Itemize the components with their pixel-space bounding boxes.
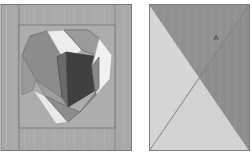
block-label-a: A — [214, 34, 219, 41]
quilt-diagram: A — [0, 0, 252, 161]
heart-block[interactable] — [1, 5, 132, 151]
figure-canvas: A — [0, 0, 252, 161]
quarter-square-block[interactable]: A — [150, 5, 250, 151]
